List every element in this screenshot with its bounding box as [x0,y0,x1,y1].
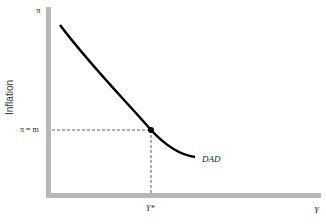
y-axis-title: Inflation [4,80,15,115]
pi-equals-m-label: π = m [20,125,39,134]
diagram-canvas [0,0,326,224]
equilibrium-point [148,127,154,133]
dad-curve [60,25,195,157]
y-axis [46,7,51,198]
dad-label: DAD [202,154,221,164]
x-axis [46,193,321,198]
y-axis-pi-label: π [36,5,41,15]
x-axis-y-label: Y [314,205,319,215]
y-star-label: Y* [146,204,154,213]
